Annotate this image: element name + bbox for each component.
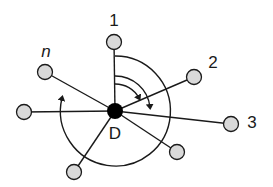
node-bl: [67, 165, 82, 180]
label-center-d: D: [109, 124, 121, 143]
node-br: [170, 145, 185, 160]
node-2: [187, 70, 202, 85]
center-node-d: [107, 103, 123, 119]
node-left: [17, 105, 32, 120]
label-node-3: 3: [247, 113, 256, 132]
node-1: [107, 35, 122, 50]
label-node-1: 1: [109, 11, 118, 30]
node-3: [224, 117, 239, 132]
node-n: [38, 65, 53, 80]
spoke-left: [24, 111, 115, 112]
spokes: [24, 42, 231, 172]
spoke-1: [114, 42, 115, 111]
spoke-n: [45, 72, 115, 111]
label-node-n: n: [41, 42, 50, 61]
star-network-diagram: 1 2 3 n D: [0, 0, 273, 187]
sweep-arc-3: [115, 76, 150, 107]
sweep-arc-2: [115, 84, 139, 98]
label-node-2: 2: [208, 53, 217, 72]
spoke-2: [115, 77, 194, 111]
